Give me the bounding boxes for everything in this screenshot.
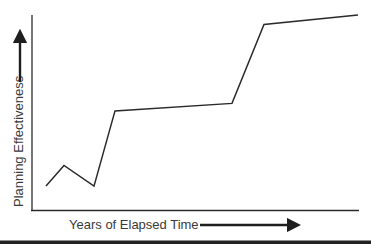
y-axis-label: Planning Effectiveness bbox=[11, 75, 26, 207]
series-line-planning-effectiveness bbox=[46, 15, 358, 186]
bottom-rule bbox=[0, 241, 371, 245]
x-axis-label: Years of Elapsed Time bbox=[69, 217, 199, 232]
chart: Planning Effectiveness Years of Elapsed … bbox=[0, 0, 371, 247]
